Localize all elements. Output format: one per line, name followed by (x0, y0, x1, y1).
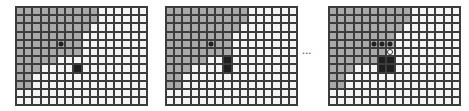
grid-cell (123, 33, 129, 39)
grid-cell (83, 8, 89, 14)
grid-cell (404, 8, 410, 14)
grid-cell (257, 41, 263, 47)
grid-cell (50, 65, 56, 71)
grid-cell (453, 90, 459, 96)
grid-cell (233, 49, 239, 55)
grid-cell (420, 41, 426, 47)
grid-cell (58, 8, 64, 14)
grid-cell (290, 33, 296, 39)
grid-cell (338, 33, 344, 39)
grid-cell (183, 16, 189, 22)
grid-cell (33, 90, 39, 96)
grid-cell (183, 24, 189, 30)
grid-cell (50, 24, 56, 30)
grid-cell (58, 90, 64, 96)
grid-cell (445, 65, 451, 71)
grid-cell (192, 90, 198, 96)
grid-cell (83, 65, 89, 71)
grid-cell (216, 8, 222, 14)
grid-cell (330, 24, 336, 30)
grid-cell (355, 8, 361, 14)
grid-cell (412, 8, 418, 14)
grid-cell (363, 49, 369, 55)
grid-cell-filled-square (74, 65, 80, 71)
grid-cell (123, 82, 129, 88)
grid-cell (208, 49, 214, 55)
grid-cell (265, 41, 271, 47)
grid-cell (338, 41, 344, 47)
grid-cell (58, 41, 64, 47)
grid-cell (404, 98, 410, 104)
grid-cell (25, 41, 31, 47)
grid-cell (379, 8, 385, 14)
grid-cell (453, 98, 459, 104)
grid-cell (167, 33, 173, 39)
grid-panel-2 (165, 6, 298, 106)
grid-cell (355, 41, 361, 47)
grid-cell (241, 90, 247, 96)
grid-cell (183, 65, 189, 71)
grid-cell (249, 82, 255, 88)
grid-cell (330, 8, 336, 14)
grid-cell (83, 49, 89, 55)
grid-cell (453, 82, 459, 88)
grid-cell (83, 33, 89, 39)
grid-cell (257, 57, 263, 63)
grid-cell (216, 16, 222, 22)
grid-cell (338, 49, 344, 55)
grid-cell (224, 82, 230, 88)
grid-cell (249, 90, 255, 96)
grid-cell (33, 57, 39, 63)
grid-cell (290, 16, 296, 22)
grid-cell (371, 33, 377, 39)
grid-cell (445, 24, 451, 30)
grid-cell (282, 49, 288, 55)
grid-cell (208, 65, 214, 71)
grid-cell (379, 41, 385, 47)
grid-cell (387, 82, 393, 88)
grid-cell (83, 24, 89, 30)
grid-cell (83, 90, 89, 96)
grid-cell (50, 74, 56, 80)
grid-cell (175, 57, 181, 63)
grid-cell (115, 41, 121, 47)
grid-cell (241, 8, 247, 14)
grid-cell (282, 98, 288, 104)
grid-cell (123, 98, 129, 104)
grid-cell (208, 16, 214, 22)
grid-cell (257, 16, 263, 22)
grid-cell (412, 16, 418, 22)
grid-cell (17, 57, 23, 63)
grid-cell (379, 82, 385, 88)
grid-cell (58, 16, 64, 22)
grid-cell (175, 49, 181, 55)
grid-cell (25, 74, 31, 80)
grid-cell (387, 98, 393, 104)
grid-cell (224, 98, 230, 104)
grid-cell (396, 24, 402, 30)
grid-cell (396, 74, 402, 80)
grid-cell (396, 16, 402, 22)
grid-cell (257, 24, 263, 30)
grid-cell (200, 16, 206, 22)
grid-cell (91, 16, 97, 22)
grid-cell (249, 98, 255, 104)
grid-cell (216, 90, 222, 96)
grid-cell (216, 49, 222, 55)
grid-cell (233, 90, 239, 96)
grid-cell (91, 41, 97, 47)
grid-cell (338, 90, 344, 96)
grid-cell (123, 41, 129, 47)
grid-cell (175, 8, 181, 14)
grid-cell (290, 41, 296, 47)
grid-cell (387, 33, 393, 39)
grid-cell (167, 57, 173, 63)
grid-cell (355, 24, 361, 30)
grid-cell (58, 98, 64, 104)
grid-cell (216, 74, 222, 80)
grid-cell (66, 65, 72, 71)
grid-cell (115, 90, 121, 96)
grid-cell (224, 90, 230, 96)
grid-cell (273, 16, 279, 22)
grid-cell (74, 74, 80, 80)
